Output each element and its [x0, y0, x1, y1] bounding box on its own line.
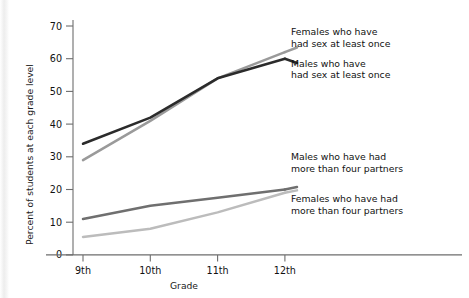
- series-line-males-sex-once: [83, 59, 285, 144]
- line-chart: Percent of students at each grade level …: [0, 0, 469, 298]
- y-tick-label-10: 10: [50, 217, 62, 228]
- annotation-females-sex-once-line1: Females who have: [291, 26, 378, 37]
- annotation-males-sex-once-line1: Males who have: [291, 58, 366, 69]
- series-line-females-four-partners: [83, 193, 285, 237]
- x-tick-label-12th: 12th: [274, 265, 296, 276]
- x-tick-label-11th: 11th: [207, 265, 229, 276]
- y-tick-label-30: 30: [50, 151, 62, 162]
- x-axis-label: Grade: [170, 280, 198, 291]
- y-tick-label-50: 50: [50, 86, 62, 97]
- y-tick-label-20: 20: [50, 184, 62, 195]
- leader-line-males-four-partners: [285, 187, 297, 189]
- y-axis-label: Percent of students at each grade level: [24, 64, 35, 245]
- annotation-females-four-partners-line2: more than four partners: [291, 205, 403, 216]
- y-tick-label-60: 60: [50, 53, 62, 64]
- annotation-females-four-partners-line1: Females who have had: [291, 193, 398, 204]
- annotation-males-sex-once-line2: had sex at least once: [291, 69, 391, 80]
- chart-page: Percent of students at each grade level …: [0, 0, 469, 298]
- x-tick-label-9th: 9th: [75, 265, 91, 276]
- annotation-females-sex-once-line2: had sex at least once: [291, 38, 391, 49]
- annotation-males-four-partners-line2: more than four partners: [291, 163, 403, 174]
- series-line-males-four-partners: [83, 190, 285, 219]
- x-tick-label-10th: 10th: [139, 265, 161, 276]
- y-tick-label-40: 40: [50, 119, 62, 130]
- annotation-males-four-partners-line1: Males who have had: [291, 151, 386, 162]
- chart-svg: Percent of students at each grade level …: [0, 0, 469, 298]
- y-tick-label-70: 70: [50, 21, 62, 32]
